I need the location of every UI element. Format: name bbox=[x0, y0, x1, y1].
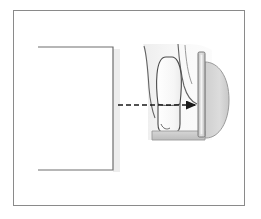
xray-cone bbox=[38, 47, 113, 170]
mouth-floor bbox=[152, 131, 205, 140]
figure-canvas bbox=[0, 0, 261, 219]
tongue bbox=[205, 62, 229, 138]
tooth bbox=[157, 57, 182, 132]
dental-xray-diagram bbox=[0, 0, 261, 219]
intraoral-sensor bbox=[198, 52, 205, 137]
cone-shadow bbox=[113, 49, 120, 172]
